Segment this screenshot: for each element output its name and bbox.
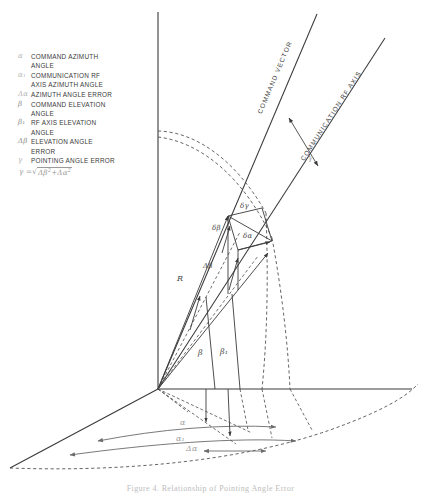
drop-dash-2 [290,389,312,430]
legend-text: AZIMUTH ANGLE ERROR [31,90,168,99]
arc-meridian-left [262,213,267,389]
formula-term2: Δα [57,168,67,177]
legend-item: β COMMAND ELEVATION ANGLE [18,100,168,118]
azimuth-drop-2 [228,389,230,436]
delta-beta-arrow [222,226,230,253]
arc-inner-upper [158,137,272,238]
legend-item: Δα AZIMUTH ANGLE ERROR [18,90,168,99]
label-delta-alpha: δα [243,232,252,240]
legend-symbol: α [18,52,31,61]
pointing-rays [158,14,385,389]
arc-meridian-right [272,238,290,389]
legend-text: POINTING ANGLE ERROR [31,156,168,165]
label-delta-gamma: δγ [240,202,249,210]
spherical-arcs [10,131,418,469]
legend-text: ELEVATION ANGLE ERROR [31,137,168,155]
drop-line-beta1 [232,294,240,389]
legend-item: γ POINTING ANGLE ERROR [18,156,168,165]
delta-alpha-arrow [238,242,270,250]
drop-dash-3 [240,389,248,430]
ground-plane-guides [158,389,252,444]
command-vector-ray [158,14,317,389]
oblique-ground-axis [10,389,158,468]
drop-line-beta [206,297,215,389]
label-delta-beta: δβ [212,224,221,232]
label-alpha-one: α₁ [176,434,185,443]
formula-term1: Δβ [38,168,48,177]
formula-term2-exponent: 2 [68,166,71,172]
legend-text: COMMAND ELEVATION ANGLE [31,100,168,118]
legend-symbol: Δα [18,90,31,99]
label-gamma: γ [308,153,313,162]
pointing-error-formula: γ =√Δβ2+Δα2 [18,166,168,176]
error-parallelogram [228,208,272,250]
legend-symbol: Δβ [18,137,31,146]
drop-dash-1 [262,389,272,438]
symbol-legend: α COMMAND AZIMUTH ANGLE α₁ COMMUNICATION… [18,52,168,177]
label-beta: β [198,348,203,357]
figure-root: α COMMAND AZIMUTH ANGLE α₁ COMMUNICATION… [0,0,421,493]
alpha-arc [98,426,276,441]
range-vector-command [158,216,228,389]
legend-text: RF AXIS ELEVATION ANGLE [31,118,168,136]
label-big-delta-beta: Δβ [203,262,213,270]
aux-projection-2 [158,256,258,389]
label-range-R: R [177,274,183,283]
figure-caption: Figure 4. Relationship of Pointing Angle… [0,484,421,493]
legend-text: COMMAND AZIMUTH ANGLE [31,52,168,70]
legend-item: α₁ COMMUNICATION RF AXIS AZIMUTH ANGLE [18,71,168,89]
legend-symbol: α₁ [18,71,31,80]
big-delta-beta-arrow [229,258,238,290]
legend-item: β₁ RF AXIS ELEVATION ANGLE [18,118,168,136]
legend-symbol: γ [18,156,31,165]
legend-item: α COMMAND AZIMUTH ANGLE [18,52,168,70]
ground-projection-lines [240,389,312,438]
label-beta-one: β₁ [220,347,228,356]
legend-text: COMMUNICATION RF AXIS AZIMUTH ANGLE [31,71,168,89]
legend-symbol: β [18,100,31,109]
legend-item: Δβ ELEVATION ANGLE ERROR [18,137,168,155]
azimuth-drop-arrows [206,389,230,436]
ground-guide-2 [158,389,236,444]
legend-symbol: β₁ [18,118,31,127]
formula-lhs: γ = [19,168,32,177]
label-big-delta-alpha: Δα [186,444,198,453]
label-alpha: α [180,418,186,427]
